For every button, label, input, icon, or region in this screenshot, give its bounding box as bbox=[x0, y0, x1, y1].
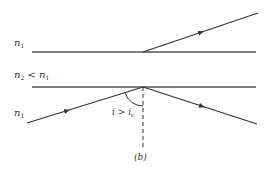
angle-arc bbox=[125, 93, 143, 106]
optics-diagram bbox=[0, 0, 269, 174]
figure-caption: (b) bbox=[134, 153, 147, 162]
medium-label-bottom: n1 bbox=[14, 108, 24, 119]
reflected-ray bbox=[143, 87, 257, 124]
upper-ray bbox=[143, 13, 258, 52]
angle-label: i > ic bbox=[112, 108, 134, 118]
medium-label-middle: n2 < n1 bbox=[14, 70, 49, 81]
medium-label-top: n1 bbox=[14, 38, 24, 49]
